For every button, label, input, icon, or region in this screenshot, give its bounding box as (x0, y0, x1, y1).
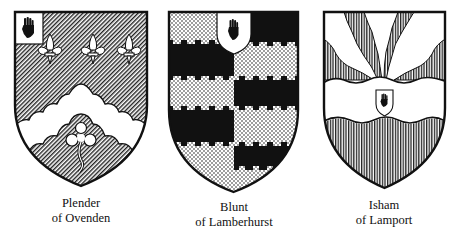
caption-blunt: Blunt of Lamberhurst (159, 200, 309, 230)
shield-blunt (166, 10, 301, 196)
shield-plender (12, 10, 150, 190)
caption-name: Blunt (159, 200, 309, 215)
caption-plender: Plender of Ovenden (6, 196, 156, 226)
caption-place: of Lamport (309, 213, 449, 228)
base-hatched (322, 118, 447, 192)
caption-name: Plender (6, 196, 156, 211)
caption-isham: Isham of Lamport (309, 198, 449, 228)
shield-isham (321, 10, 448, 192)
caption-place: of Lamberhurst (159, 215, 309, 230)
caption-name: Isham (309, 198, 449, 213)
caption-place: of Ovenden (6, 211, 156, 226)
